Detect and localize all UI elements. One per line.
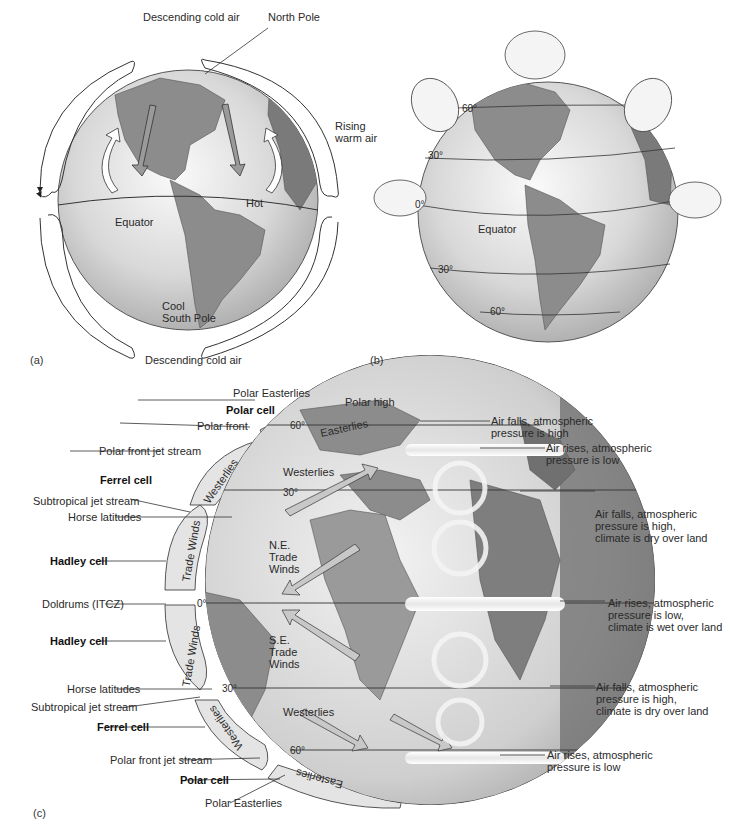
label-subtropical-jet-top: Subtropical jet stream xyxy=(33,495,139,507)
label-air-rises-equator: Air rises, atmospheric pressure is low, … xyxy=(608,597,722,633)
panel-letter-b: (b) xyxy=(370,354,383,366)
label-equator-b: Equator xyxy=(478,223,517,235)
label-air-rises-60s: Air rises, atmospheric pressure is low xyxy=(547,749,653,773)
label-lat-0-c: 0° xyxy=(197,598,207,610)
label-lat-30s: 30° xyxy=(438,264,453,276)
label-subtropical-jet-bottom: Subtropical jet stream xyxy=(31,701,137,713)
label-hadley-cell-top: Hadley cell xyxy=(50,555,107,567)
label-lat-30n: 30° xyxy=(428,150,443,162)
label-ne-trade-winds: N.E. Trade Winds xyxy=(269,539,300,575)
label-hadley-cell-bottom: Hadley cell xyxy=(50,635,107,647)
panel-letter-a: (a) xyxy=(30,354,43,366)
label-ferrel-cell-top: Ferrel cell xyxy=(100,474,152,486)
label-westerlies-south: Westerlies xyxy=(283,706,334,718)
label-polar-easterlies-top: Polar Easterlies xyxy=(233,387,310,399)
label-polar-cell-bottom: Polar cell xyxy=(180,774,229,786)
label-air-falls-polar-high: Air falls, atmospheric pressure is high xyxy=(491,415,593,439)
label-lat-60s: 60° xyxy=(490,306,505,318)
label-descending-cold-air-top: Descending cold air xyxy=(143,11,240,23)
label-westerlies-north: Westerlies xyxy=(283,466,334,478)
label-horse-latitudes-bottom: Horse latitudes xyxy=(67,683,140,695)
label-air-falls-30n: Air falls, atmospheric pressure is high,… xyxy=(595,508,708,544)
label-ferrel-cell-bottom: Ferrel cell xyxy=(97,721,149,733)
label-rising-warm-air: Rising warm air xyxy=(335,120,377,144)
globe-c xyxy=(70,355,745,810)
label-descending-cold-air-bottom: Descending cold air xyxy=(145,354,242,366)
panel-letter-c: (c) xyxy=(33,807,46,819)
label-lat-0: 0° xyxy=(415,199,425,211)
label-polar-cell-top: Polar cell xyxy=(226,404,275,416)
label-north-pole: North Pole xyxy=(268,11,320,23)
label-polar-high: Polar high xyxy=(345,396,395,408)
label-equator-a: Equator xyxy=(115,216,154,228)
label-lat-30s-c: 30° xyxy=(222,683,237,695)
label-polar-front: Polar front xyxy=(197,420,248,432)
label-polar-front-jet-bottom: Polar front jet stream xyxy=(110,754,212,766)
label-polar-front-jet-top: Polar front jet stream xyxy=(99,445,201,457)
label-polar-easterlies-bottom: Polar Easterlies xyxy=(205,797,282,809)
label-lat-30n-c: 30° xyxy=(283,487,298,499)
label-lat-60n-c: 60° xyxy=(290,420,305,432)
label-hot: Hot xyxy=(246,197,263,209)
label-air-rises-60n: Air rises, atmospheric pressure is low xyxy=(546,442,652,466)
label-se-trade-winds: S.E. Trade Winds xyxy=(269,634,300,670)
label-horse-latitudes-top: Horse latitudes xyxy=(68,511,141,523)
label-cool-south-pole: Cool South Pole xyxy=(162,300,216,324)
label-air-falls-30s: Air falls, atmospheric pressure is high,… xyxy=(596,681,709,717)
label-lat-60s-c: 60° xyxy=(290,745,305,757)
label-doldrums: Doldrums (ITCZ) xyxy=(42,598,124,610)
globe-b xyxy=(374,31,721,342)
label-lat-60n: 60° xyxy=(462,103,477,115)
